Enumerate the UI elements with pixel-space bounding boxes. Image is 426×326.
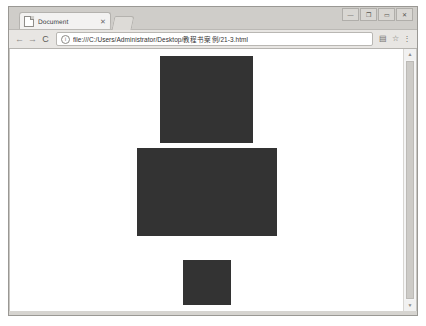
scroll-up-arrow-icon[interactable]: ▲ [404, 49, 416, 60]
bookmark-star-icon[interactable]: ☆ [389, 33, 401, 46]
reload-icon[interactable]: C [39, 33, 52, 46]
browser-window: Document ✕ — ❐ ▭ ✕ ← → C i file:///C:/Us… [8, 6, 418, 316]
forward-arrow-icon[interactable]: → [26, 33, 39, 46]
tab-document[interactable]: Document ✕ [19, 12, 111, 29]
scrollbar-thumb[interactable] [406, 61, 414, 299]
tab-title: Document [38, 18, 97, 25]
minimize-button[interactable]: — [342, 8, 359, 21]
menu-kebab-icon[interactable]: ⋮ [401, 33, 413, 46]
page-content [10, 49, 403, 311]
back-arrow-icon[interactable]: ← [13, 33, 26, 46]
page-favicon-icon [24, 16, 34, 27]
content-block-3 [183, 260, 231, 305]
page-viewport: ▲ ▼ [9, 49, 417, 311]
extension-icon[interactable]: ▤ [377, 33, 389, 46]
tab-close-icon[interactable]: ✕ [97, 18, 106, 25]
vertical-scrollbar[interactable]: ▲ ▼ [403, 49, 416, 311]
tab-strip: Document ✕ — ❐ ▭ ✕ [9, 7, 417, 29]
site-info-icon[interactable]: i [61, 35, 70, 44]
restore-button[interactable]: ❐ [360, 8, 377, 21]
url-text: file:///C:/Users/Administrator/Desktop/教… [73, 34, 248, 44]
close-button[interactable]: ✕ [396, 8, 413, 21]
window-bottom-edge [9, 311, 417, 315]
address-bar[interactable]: i file:///C:/Users/Administrator/Desktop… [56, 32, 373, 46]
new-tab-button[interactable] [112, 16, 135, 30]
window-controls: — ❐ ▭ ✕ [342, 8, 413, 21]
content-block-2 [137, 148, 277, 236]
browser-toolbar: ← → C i file:///C:/Users/Administrator/D… [9, 29, 417, 49]
maximize-button[interactable]: ▭ [378, 8, 395, 21]
scrollbar-track[interactable] [404, 60, 416, 300]
scroll-down-arrow-icon[interactable]: ▼ [404, 300, 416, 311]
content-block-1 [160, 56, 253, 143]
